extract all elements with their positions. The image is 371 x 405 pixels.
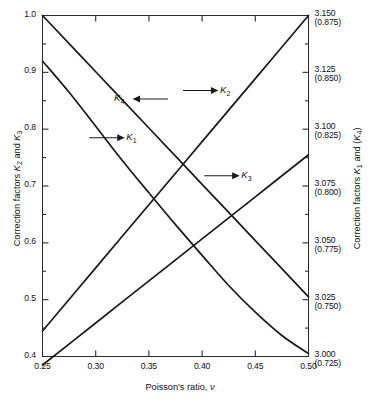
x-title-prefix: Poisson's ratio, (145, 382, 210, 392)
curve-k4 (43, 16, 309, 297)
y-left-title-k3: K (12, 135, 22, 141)
curve-label-k1: K1 (126, 131, 136, 144)
y-right-tick-main: 3.000 (315, 349, 336, 359)
curve-k1 (43, 61, 309, 354)
y-left-tick-label: 1.0 (4, 10, 36, 19)
curve-layer (0, 0, 371, 405)
curve-label-k2: K2 (220, 84, 230, 97)
y-right-tick-paren: (0.875) (315, 18, 359, 27)
curve-label-subscript: 4 (120, 98, 124, 105)
y-left-title-mid: and (12, 141, 22, 161)
arrow-head-k3 (233, 173, 239, 178)
annotation-arrows (89, 88, 238, 178)
y-left-title-k2: K (12, 165, 22, 171)
curve-label-subscript: 1 (133, 137, 137, 144)
arrow-head-k4 (134, 96, 140, 101)
x-tick-label: 0.40 (182, 362, 222, 371)
y-right-tick-label: 3.025(0.750) (315, 293, 359, 311)
y-right-tick-main: 3.150 (315, 8, 336, 18)
y-right-title-prefix: Correction factors (352, 174, 362, 249)
y-axis-right-title: Correction factors K1 and (K4) (352, 113, 365, 263)
y-left-tick-label: 0.4 (4, 351, 36, 360)
curve-label-subscript: 3 (248, 175, 252, 182)
y-right-title-k4: K (352, 135, 362, 141)
y-right-title-k1-sub: 1 (355, 164, 364, 168)
curve-label-k3: K3 (241, 169, 251, 182)
y-right-title-k4-sub: 4 (355, 131, 364, 135)
x-tick-label: 0.30 (76, 362, 116, 371)
y-left-tick-label: 0.9 (4, 66, 36, 75)
y-right-tick-label: 3.125(0.850) (315, 65, 359, 83)
curve-k2 (43, 16, 309, 331)
y-left-title-k3-sub: 3 (15, 131, 24, 135)
y-left-title-k2-sub: 2 (15, 161, 24, 165)
arrow-head-k2 (211, 88, 217, 93)
curve-k3 (43, 155, 309, 365)
chart-figure: 0.40.50.60.70.80.91.0 3.150(0.875)3.125(… (0, 0, 371, 405)
y-left-title-prefix: Correction factors (12, 171, 22, 246)
y-right-title-suffix: ) (352, 127, 362, 130)
x-title-symbol-nu: ν (210, 382, 215, 392)
y-right-tick-paren: (0.850) (315, 74, 359, 83)
y-left-tick-label: 0.5 (4, 294, 36, 303)
curve-label-k4: K4 (114, 92, 124, 105)
y-right-tick-label: 3.150(0.875) (315, 9, 359, 27)
x-tick-label: 0.45 (235, 362, 275, 371)
arrow-head-k1 (118, 135, 124, 140)
y-right-title-mid: and ( (352, 141, 362, 165)
curve-label-subscript: 2 (226, 89, 230, 96)
x-tick-label: 0.35 (129, 362, 169, 371)
y-right-title-k1: K (352, 168, 362, 174)
x-axis-title: Poisson's ratio, ν (90, 382, 270, 392)
y-right-tick-paren: (0.750) (315, 302, 359, 311)
x-tick-label: 0.25 (23, 362, 63, 371)
data-curves (43, 16, 309, 366)
y-axis-left-title: Correction factors K2 and K3 (12, 113, 25, 263)
x-tick-label: 0.50 (289, 362, 329, 371)
